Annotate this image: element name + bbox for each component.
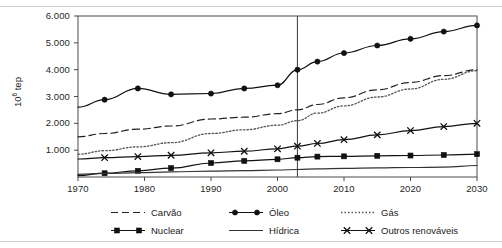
series-marker-1-13 bbox=[474, 23, 479, 28]
series-line-0 bbox=[78, 70, 477, 137]
legend-marker-1-0 bbox=[232, 209, 237, 214]
series-marker-3-3 bbox=[169, 166, 174, 171]
series-marker-1-4 bbox=[208, 91, 213, 96]
series-marker-3-5 bbox=[242, 158, 247, 163]
legend-label-5: Outros renováveis bbox=[381, 225, 458, 236]
series-marker-1-12 bbox=[441, 29, 446, 34]
series-marker-1-3 bbox=[169, 92, 174, 97]
legend-marker-1-1 bbox=[254, 209, 259, 214]
series-marker-1-6 bbox=[275, 83, 280, 88]
legend-item-óleo[interactable]: Óleo bbox=[228, 207, 340, 218]
series-marker-3-10 bbox=[375, 153, 380, 158]
legend-swatch-0 bbox=[110, 207, 146, 218]
series-marker-3-6 bbox=[275, 157, 280, 162]
legend-marker-3-1 bbox=[137, 228, 142, 233]
series-marker-3-9 bbox=[342, 154, 347, 159]
legend-label-2: Gás bbox=[381, 207, 398, 218]
series-marker-1-11 bbox=[408, 36, 413, 41]
series-marker-1-9 bbox=[341, 50, 346, 55]
legend-swatch-1 bbox=[228, 207, 264, 218]
series-marker-1-5 bbox=[242, 86, 247, 91]
plot-border bbox=[78, 16, 477, 177]
chart-figure: 106 tep 1.0002.0003.0004.0005.0006.000 1… bbox=[0, 0, 502, 248]
legend-marker-3-0 bbox=[115, 228, 120, 233]
series-outros-renováveis bbox=[78, 120, 480, 161]
series-marker-3-12 bbox=[441, 152, 446, 157]
legend-item-gás[interactable]: Gás bbox=[340, 207, 480, 218]
series-marker-1-7 bbox=[295, 67, 300, 72]
legend-swatch-2 bbox=[340, 207, 376, 218]
series-carvão bbox=[78, 70, 477, 137]
series-marker-1-10 bbox=[375, 43, 380, 48]
legend-label-3: Nuclear bbox=[151, 225, 184, 236]
series-óleo bbox=[78, 23, 480, 107]
legend-label-1: Óleo bbox=[269, 207, 289, 218]
legend-label-0: Carvão bbox=[151, 207, 182, 218]
legend-label-4: Hídrica bbox=[269, 225, 299, 236]
legend-item-hídrica[interactable]: Hídrica bbox=[228, 225, 340, 236]
legend-item-carvão[interactable]: Carvão bbox=[110, 207, 228, 218]
series-marker-1-1 bbox=[102, 97, 107, 102]
series-marker-3-7 bbox=[295, 155, 300, 160]
series-marker-3-4 bbox=[209, 161, 214, 166]
series-marker-3-13 bbox=[475, 152, 480, 157]
legend-item-outros-renováveis[interactable]: Outros renováveis bbox=[340, 225, 480, 236]
legend-item-nuclear[interactable]: Nuclear bbox=[110, 225, 228, 236]
legend-swatch-3 bbox=[110, 225, 146, 236]
legend-swatch-5 bbox=[340, 225, 376, 236]
series-marker-1-2 bbox=[135, 86, 140, 91]
series-line-1 bbox=[78, 25, 477, 107]
series-marker-1-8 bbox=[315, 59, 320, 64]
series-marker-3-11 bbox=[408, 153, 413, 158]
legend-swatch-4 bbox=[228, 225, 264, 236]
series-group bbox=[78, 23, 480, 176]
chart-legend: CarvãoÓleoGásNuclearHídricaOutros renová… bbox=[110, 203, 440, 239]
series-marker-3-8 bbox=[315, 154, 320, 159]
